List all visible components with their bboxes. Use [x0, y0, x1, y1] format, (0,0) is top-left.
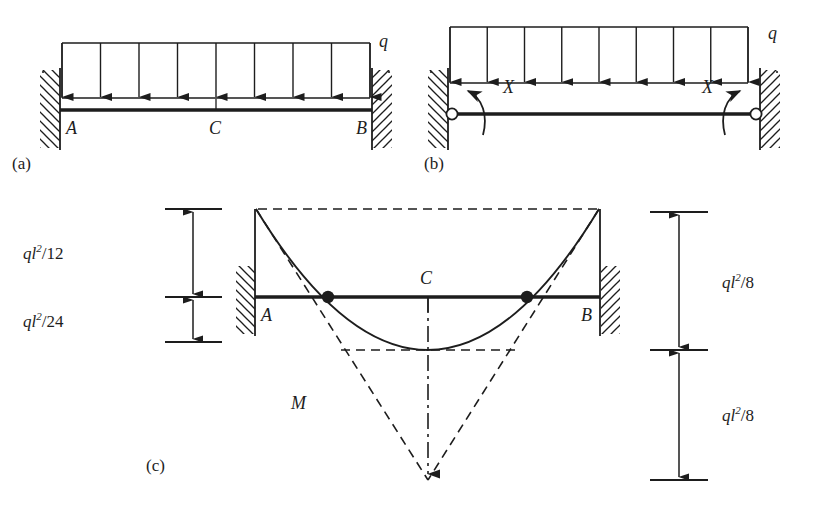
- panel-a-tag: (a): [12, 155, 31, 172]
- panel-b-right-pin: [750, 108, 761, 119]
- panel-c-node-a-label: A: [261, 306, 272, 324]
- panel-a-right-support: [372, 68, 392, 150]
- panel-c-inflection-dot-left: [322, 291, 334, 303]
- panel-a-node-a-label: A: [66, 119, 77, 137]
- panel-c-right-dimension: [650, 212, 708, 480]
- panel-a-node-c-label: C: [209, 119, 221, 137]
- dim-trail: /24: [42, 312, 64, 331]
- dim-lead: ql: [23, 244, 36, 263]
- panel-b: [428, 27, 780, 150]
- panel-c-right-support: [600, 209, 620, 336]
- dim-trail: /8: [741, 273, 754, 292]
- dim-lead: ql: [722, 406, 735, 425]
- panel-a-load-label: q: [379, 32, 388, 50]
- panel-b-left-redundant-label: X: [503, 78, 514, 96]
- dimension-label-simple-moment-upper: ql2/8: [722, 272, 754, 291]
- dimension-label-midspan-moment: ql2/24: [23, 311, 63, 330]
- panel-c-inflection-dot-right: [521, 291, 533, 303]
- panel-b-left-wall: [428, 68, 448, 150]
- panel-c-node-c-label: C: [420, 269, 432, 287]
- panel-b-right-wall: [760, 68, 780, 150]
- panel-b-load-label: q: [768, 24, 777, 42]
- panel-c-tag: (c): [146, 457, 165, 474]
- panel-c-node-b-label: B: [581, 306, 592, 324]
- dim-trail: /8: [741, 406, 754, 425]
- panel-a-node-b-label: B: [356, 119, 367, 137]
- panel-c-moment-label: M: [291, 394, 306, 412]
- panel-b-left-pin: [446, 108, 457, 119]
- panel-b-distributed-load: [450, 27, 748, 83]
- panel-c-left-dimension: [165, 209, 222, 342]
- panel-b-tag: (b): [424, 155, 444, 172]
- dim-lead: ql: [722, 273, 735, 292]
- beam-bending-moment-figure: [0, 0, 815, 517]
- dim-trail: /12: [42, 244, 64, 263]
- dimension-label-simple-moment-lower: ql2/8: [722, 405, 754, 424]
- dimension-label-support-moment: ql2/12: [23, 243, 63, 262]
- dim-lead: ql: [23, 312, 36, 331]
- panel-c-left-support: [236, 209, 255, 336]
- panel-a-left-support: [40, 68, 60, 150]
- panel-b-right-redundant-label: X: [702, 78, 713, 96]
- panel-c: [165, 209, 708, 480]
- panel-a-distributed-load: [62, 43, 370, 98]
